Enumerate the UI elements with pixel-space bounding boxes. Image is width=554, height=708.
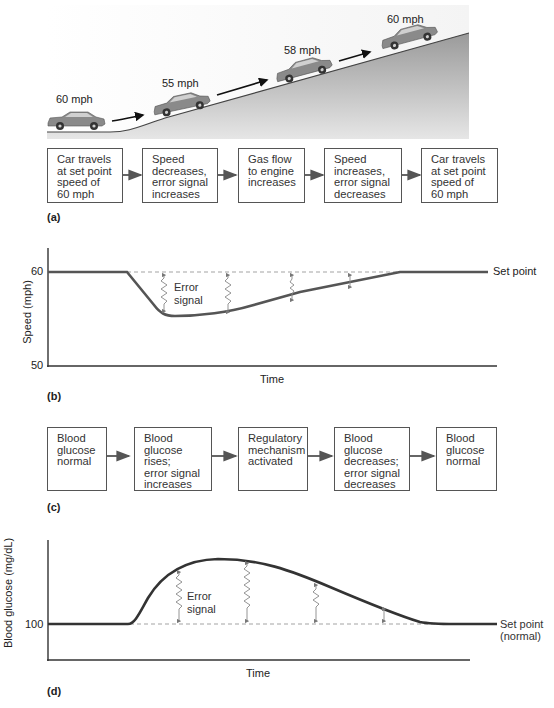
flow-box-c-3: Regulatory mechanism activated <box>238 427 308 491</box>
flow-text: decreases <box>334 189 401 201</box>
set-point-text: Set point <box>500 618 543 630</box>
flow-box-a-2: Speed decreases, error signal increases <box>142 148 218 203</box>
glucose-chart <box>47 540 497 661</box>
flow-text: Blood <box>446 433 496 445</box>
flow-box-a-1: Car travels at set point speed of 60 mph <box>47 148 123 203</box>
flow-text: 60 mph <box>57 189 122 201</box>
flow-text: Blood <box>344 433 409 445</box>
flow-text: normal <box>57 456 106 468</box>
panel-label-b: (b) <box>47 390 61 402</box>
flow-text: 60 mph <box>431 189 497 201</box>
error-text: signal <box>187 603 216 616</box>
y-axis-title-glucose: Blood glucose (mg/dL) <box>2 538 14 648</box>
error-text: Error <box>174 281 203 294</box>
error-text: signal <box>174 294 203 307</box>
tick-100: 100 <box>25 618 43 630</box>
flow-text: increases <box>144 479 211 491</box>
flow-text: Car travels <box>57 154 122 166</box>
flow-box-a-3: Gas flow to engine increases <box>238 148 305 203</box>
flow-text: Regulatory <box>248 433 307 445</box>
flow-text: Gas flow <box>248 154 304 166</box>
y-axis-title-speed: Speed (mph) <box>21 272 33 352</box>
flow-text: increases <box>152 189 217 201</box>
flow-box-c-4: Blood glucose decreases; error signal de… <box>334 427 410 491</box>
flow-text: normal <box>446 456 496 468</box>
speed-chart <box>47 248 497 367</box>
flow-text: activated <box>248 456 307 468</box>
flow-box-a-4: Speed increases, error signal decreases <box>324 148 402 203</box>
flow-box-c-1: Blood glucose normal <box>47 427 107 491</box>
speed-label-car-3: 58 mph <box>284 44 321 56</box>
set-point-normal-label: Set point (normal) <box>500 618 543 642</box>
flow-text: Speed <box>334 154 401 166</box>
flow-text: decreases <box>344 479 409 491</box>
speed-label-car-2: 55 mph <box>162 77 199 89</box>
flow-text: Blood <box>144 433 211 445</box>
tick-50: 50 <box>31 359 43 371</box>
panel-label-a: (a) <box>47 211 60 223</box>
panel-label-c: (c) <box>47 501 60 513</box>
flow-text: Car travels <box>431 154 497 166</box>
flow-box-c-2: Blood glucose rises; error signal increa… <box>134 427 212 491</box>
error-text: Error <box>187 590 216 603</box>
glucose-curve <box>48 559 497 624</box>
flow-text: Blood <box>57 433 106 445</box>
speed-label-car-4: 60 mph <box>387 13 424 25</box>
x-axis-title-time: Time <box>260 373 284 385</box>
hill-scene <box>0 0 554 708</box>
error-signal-label: Error signal <box>187 590 216 616</box>
set-point-text: (normal) <box>500 630 543 642</box>
flow-text: increases <box>248 177 304 189</box>
error-signal-label: Error signal <box>174 281 203 307</box>
flow-box-a-5: Car travels at set point speed of 60 mph <box>421 148 498 203</box>
speed-curve <box>48 272 488 316</box>
flow-text: Speed <box>152 154 217 166</box>
flow-box-c-5: Blood glucose normal <box>436 427 497 491</box>
panel-label-d: (d) <box>47 685 61 697</box>
set-point-label: Set point <box>493 265 536 277</box>
speed-label-car-1: 60 mph <box>56 93 93 105</box>
x-axis-title-time: Time <box>246 667 270 679</box>
